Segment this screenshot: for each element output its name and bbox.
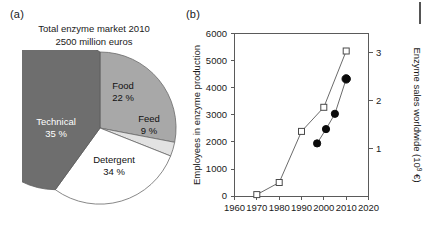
pie-chart-graphic: Food 22 % Feed 9 % Technical 35 % Deterg… xyxy=(22,50,178,206)
x-tick-2000: 2000 xyxy=(313,202,334,213)
series-employees-markers xyxy=(254,48,349,198)
pie-label-detergent: Detergent 34 % xyxy=(78,154,150,178)
data-point-1970 xyxy=(254,192,260,198)
y-axis-left-ticks xyxy=(231,34,235,197)
y-axis-right-title: Enzyme sales worldwide (109 €) xyxy=(412,47,424,182)
y2-title-tail: €) xyxy=(412,171,423,182)
panel-b-line-chart: (b) 6000 5000 4000 3000 2000 100 xyxy=(186,0,435,230)
x-tick-2020: 2020 xyxy=(358,202,379,213)
y2-tick-1: 1 xyxy=(376,143,381,154)
y-tick-0: 0 xyxy=(222,190,227,201)
data-point-2010 xyxy=(343,48,349,54)
y-axis-right-tick-labels: 1 2 3 xyxy=(376,47,381,154)
y-axis-left-tick-labels: 6000 5000 4000 3000 2000 1000 0 xyxy=(206,28,227,201)
x-axis-tick-labels: 1960 1970 1980 1990 2000 2010 2020 xyxy=(224,202,379,213)
y-tick-2000: 2000 xyxy=(206,136,227,147)
y-tick-3000: 3000 xyxy=(206,109,227,120)
y-tick-1000: 1000 xyxy=(206,163,227,174)
plot-frame xyxy=(235,34,369,197)
data-point-1990 xyxy=(299,128,305,134)
x-tick-1990: 1990 xyxy=(291,202,312,213)
panel-a-pie-chart: (a) Total enzyme market 2010 2500 millio… xyxy=(0,0,186,230)
y-axis-right-ticks xyxy=(369,53,373,149)
y2-tick-2: 2 xyxy=(376,95,381,106)
svg-text:Enzyme sales worldwide (109 €): Enzyme sales worldwide (109 €) xyxy=(412,47,424,182)
pie-title-line-1: Total enzyme market 2010 xyxy=(8,23,180,36)
pie-label-detergent-name: Detergent xyxy=(78,154,150,166)
series-employees-line xyxy=(257,51,346,195)
pie-label-feed: Feed 9 % xyxy=(126,113,172,137)
pie-title-line-2: 2500 million euros xyxy=(8,36,180,49)
pie-label-food: Food 22 % xyxy=(96,80,150,104)
pie-label-detergent-percent: 34 % xyxy=(78,166,150,178)
pie-label-food-name: Food xyxy=(96,80,150,92)
x-tick-2010: 2010 xyxy=(336,202,357,213)
pie-label-food-percent: 22 % xyxy=(96,92,150,104)
panel-a-label: (a) xyxy=(10,8,24,20)
pie-label-technical-percent: 35 % xyxy=(24,128,88,140)
pie-label-feed-name: Feed xyxy=(126,113,172,125)
x-tick-1980: 1980 xyxy=(269,202,290,213)
pie-label-technical-name: Technical xyxy=(24,116,88,128)
data-point-sales-2010 xyxy=(342,75,350,83)
y2-title-main: Enzyme sales worldwide (10 xyxy=(412,47,423,167)
panel-b-label: (b) xyxy=(186,8,200,20)
pie-chart-title: Total enzyme market 2010 2500 million eu… xyxy=(8,23,180,48)
x-tick-1970: 1970 xyxy=(246,202,267,213)
data-point-1980 xyxy=(276,180,282,186)
page-edge-mark xyxy=(419,2,421,24)
x-tick-1960: 1960 xyxy=(224,202,245,213)
data-point-sales-1997 xyxy=(314,140,321,147)
data-point-sales-2001 xyxy=(322,126,329,133)
data-point-sales-2005 xyxy=(331,110,338,117)
y2-tick-3: 3 xyxy=(376,47,381,58)
y-axis-left-title: Employees in enzyme production xyxy=(191,45,202,185)
pie-label-feed-percent: 9 % xyxy=(126,125,172,137)
y-tick-5000: 5000 xyxy=(206,55,227,66)
figure-root: (a) Total enzyme market 2010 2500 millio… xyxy=(0,0,435,230)
data-point-2000 xyxy=(321,104,327,110)
y-tick-4000: 4000 xyxy=(206,82,227,93)
y-tick-6000: 6000 xyxy=(206,28,227,39)
pie-label-technical: Technical 35 % xyxy=(24,116,88,140)
